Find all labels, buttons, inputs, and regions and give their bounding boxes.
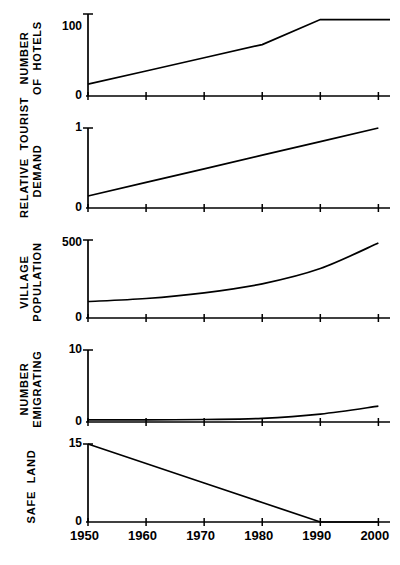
x-tick-label-1970: 1970: [186, 528, 215, 543]
panel-number-emigrating: NUMBER EMIGRATING010: [0, 346, 400, 432]
multi-panel-time-series-figure: NUMBER OF HOTELS0100RELATIVE TOURIST DEM…: [0, 0, 400, 565]
data-line-village-population-0: [88, 243, 378, 302]
x-tick-label-1990: 1990: [302, 528, 331, 543]
panel-number-of-hotels: NUMBER OF HOTELS0100: [0, 10, 400, 106]
x-tick-label-1950: 1950: [70, 528, 99, 543]
data-line-relative-tourist-demand-0: [88, 128, 378, 196]
panel-village-population: VILLAGE POPULATION0500: [0, 236, 400, 328]
data-line-number-of-hotels-0: [88, 20, 390, 85]
plot-area-safe-land: [0, 440, 400, 532]
plot-area-number-of-hotels: [0, 10, 400, 106]
x-tick-label-1980: 1980: [244, 528, 273, 543]
x-tick-label-1960: 1960: [128, 528, 157, 543]
plot-area-village-population: [0, 236, 400, 328]
panel-relative-tourist-demand: RELATIVE TOURIST DEMAND01: [0, 124, 400, 218]
data-line-number-emigrating-0: [88, 406, 378, 420]
data-line-safe-land-0: [88, 444, 378, 522]
panel-safe-land: SAFE LAND015: [0, 440, 400, 532]
plot-area-number-emigrating: [0, 346, 400, 432]
plot-area-relative-tourist-demand: [0, 124, 400, 218]
x-tick-label-2000: 2000: [360, 528, 389, 543]
